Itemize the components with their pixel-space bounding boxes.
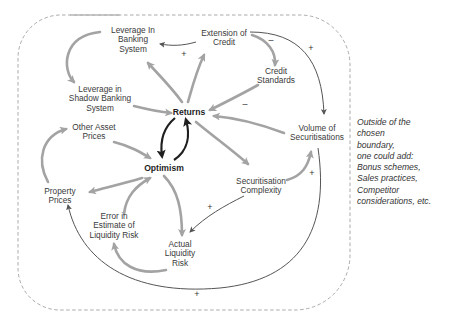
edge-error-to-optimism xyxy=(124,178,150,214)
edge-returns-to-complexity xyxy=(196,122,248,164)
edge-standards-to-returns xyxy=(210,85,258,110)
edge-extension-to-leverage-banking xyxy=(160,42,196,45)
edge-complexity-to-volume xyxy=(287,152,311,180)
edge-leverage-banking-to-shadow xyxy=(67,32,100,82)
edge-returns-to-optimism xyxy=(161,118,175,156)
sign-volume-property-plus: + xyxy=(194,289,199,299)
edge-property-to-other-assets xyxy=(42,129,66,182)
node-error-in-estimate-liquidity-risk: Error inEstimate ofLiquidity Risk xyxy=(90,212,139,240)
node-property-prices: PropertyPrices xyxy=(44,187,75,206)
sign-extension-leverage-plus: + xyxy=(181,49,186,59)
node-leverage-banking-system: Leverage InBankingSystem xyxy=(111,26,155,54)
edge-returns-to-extension-credit xyxy=(188,55,204,102)
node-volume-of-securitisations: Volume ofSecuritisations xyxy=(290,124,344,143)
sign-complexity-liquidity-plus: + xyxy=(207,202,212,212)
node-returns: Returns xyxy=(173,108,205,117)
node-leverage-shadow-banking: Leverage inShadow BankingSystem xyxy=(69,85,131,113)
outside-boundary-note: Outside of the chosen boundary, one coul… xyxy=(357,117,431,207)
sign-extension-volume-plus: + xyxy=(308,43,313,53)
sign-complexity-volume-plus: + xyxy=(309,168,314,178)
sign-extension-standards-minus: – xyxy=(268,35,273,45)
edge-actual-to-error xyxy=(114,244,166,272)
edge-volume-to-returns xyxy=(214,116,284,133)
node-extension-of-credit: Extension ofCredit xyxy=(201,29,247,48)
node-other-asset-prices: Other AssetPrices xyxy=(72,123,115,142)
node-credit-standards: CreditStandards xyxy=(257,67,295,86)
node-securitisation-complexity: SecuritisationComplexity xyxy=(236,177,286,196)
edge-shadow-to-returns xyxy=(134,106,171,113)
edge-optimism-to-returns xyxy=(174,120,188,160)
node-optimism: Optimism xyxy=(144,164,184,173)
edge-other-assets-to-optimism xyxy=(114,142,150,158)
sign-standards-returns-minus: – xyxy=(242,99,247,109)
edge-complexity-to-actual-liquidity xyxy=(190,196,244,232)
edge-optimism-to-actual-liquidity xyxy=(164,176,182,235)
edge-returns-to-leverage-banking xyxy=(148,63,182,102)
node-actual-liquidity-risk: ActualLiquidityRisk xyxy=(165,240,195,268)
